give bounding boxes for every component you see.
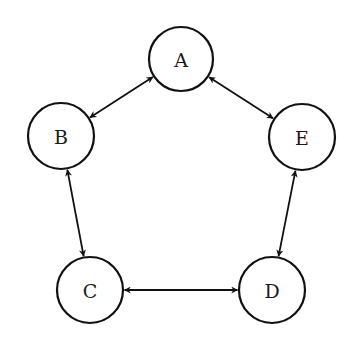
node-c-label: C (83, 280, 98, 302)
node-b-label: B (54, 126, 68, 148)
node-a: A (149, 27, 213, 91)
edge-e-a (209, 77, 273, 118)
node-b: B (28, 103, 94, 169)
edge-b-c (67, 170, 83, 256)
graph-diagram: A B C D E (0, 0, 356, 342)
nodes-layer: A B C D E (28, 27, 335, 323)
node-d: D (239, 257, 305, 323)
edge-d-e (279, 171, 296, 256)
node-a-label: A (173, 49, 188, 71)
node-e: E (269, 104, 335, 170)
node-e-label: E (295, 127, 309, 149)
node-d-label: D (264, 280, 279, 302)
edge-a-b (90, 77, 153, 117)
node-c: C (57, 257, 123, 323)
